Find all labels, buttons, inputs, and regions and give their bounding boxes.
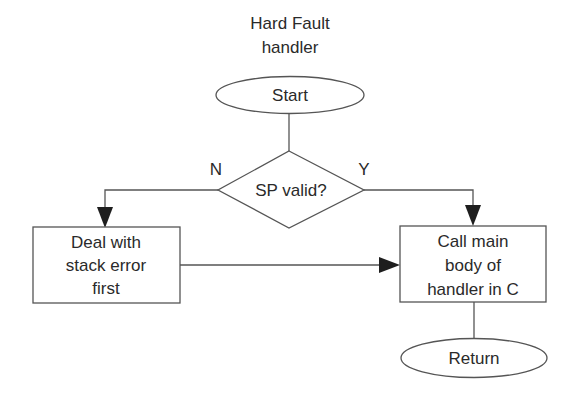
call-main-body-line-2: body of bbox=[445, 256, 501, 275]
arrowhead-down-icon bbox=[97, 207, 113, 228]
title-line-2: handler bbox=[262, 38, 319, 57]
process-deal-stack-error: Deal with stack error first bbox=[33, 227, 180, 303]
process-call-main-body: Call main body of handler in C bbox=[400, 226, 546, 302]
edge-decision-no-branch bbox=[105, 190, 218, 212]
diagram-title: Hard Fault handler bbox=[250, 14, 330, 57]
call-main-body-line-1: Call main bbox=[438, 232, 509, 251]
decision-label: SP valid? bbox=[255, 181, 327, 200]
decision-sp-valid: SP valid? bbox=[218, 151, 364, 228]
no-branch-label: N bbox=[210, 160, 222, 179]
deal-stack-error-line-2: stack error bbox=[66, 256, 147, 275]
start-terminator: Start bbox=[216, 77, 364, 114]
edge-decision-yes-branch bbox=[364, 190, 473, 210]
arrowhead-down-icon bbox=[465, 205, 481, 226]
flowchart-canvas: Hard Fault handler Start SP valid? N Y D… bbox=[0, 0, 578, 398]
arrowhead-right-icon bbox=[379, 257, 400, 273]
return-terminator: Return bbox=[401, 339, 547, 378]
return-label: Return bbox=[448, 349, 499, 368]
yes-branch-label: Y bbox=[358, 160, 369, 179]
start-label: Start bbox=[272, 86, 308, 105]
title-line-1: Hard Fault bbox=[250, 14, 330, 33]
deal-stack-error-line-1: Deal with bbox=[71, 233, 141, 252]
call-main-body-line-3: handler in C bbox=[427, 280, 519, 299]
deal-stack-error-line-3: first bbox=[92, 279, 120, 298]
